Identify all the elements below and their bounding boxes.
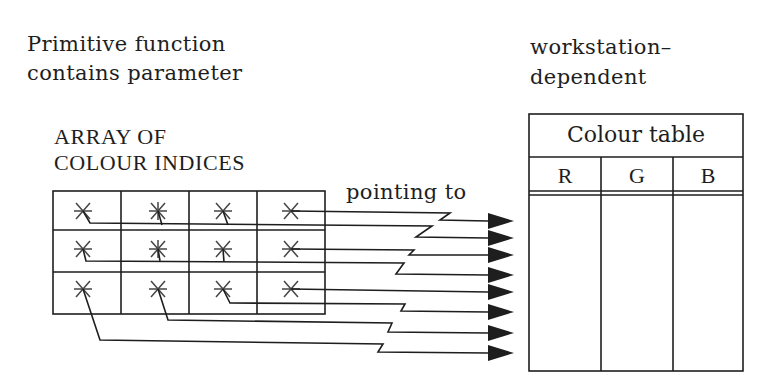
colour-table-title: Colour table xyxy=(529,122,743,147)
column-header-r: R xyxy=(529,163,601,189)
column-header-b: B xyxy=(673,163,743,189)
diagram-canvas xyxy=(0,0,768,379)
colour-index-array-grid xyxy=(53,191,325,314)
asterisk-markers xyxy=(74,202,300,297)
colour-table xyxy=(529,114,743,371)
column-header-g: G xyxy=(601,163,673,189)
arrowheads xyxy=(488,213,514,361)
